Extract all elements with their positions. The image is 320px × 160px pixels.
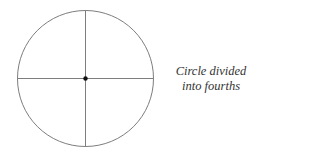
figure-caption: Circle divided into fourths	[160, 64, 257, 94]
caption-line-1: Circle divided	[160, 64, 257, 79]
center-dot	[83, 76, 87, 80]
caption-line-2: into fourths	[160, 79, 257, 94]
